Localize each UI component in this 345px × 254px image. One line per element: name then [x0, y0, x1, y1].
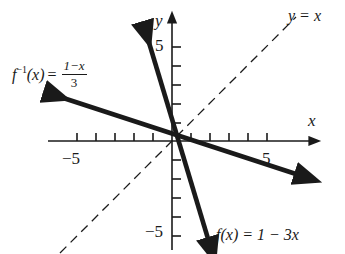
function-equation-label: f(x) = 1 − 3x: [216, 227, 299, 243]
identity-line-label: y = x: [288, 8, 321, 24]
inverse-function-equation-label: f−1(x) = 1−x 3: [12, 60, 87, 90]
fraction-numerator: 1−x: [62, 59, 87, 74]
x-tick-label-positive-5: 5: [262, 150, 271, 167]
inverse-function-exponent: −1: [16, 65, 26, 75]
inverse-function-argument: (x): [27, 67, 45, 83]
y-tick-label-negative-5: −5: [145, 223, 163, 240]
x-tick-label-negative-5: −5: [62, 150, 80, 167]
y-axis-label: y: [155, 12, 163, 29]
coordinate-plane: [0, 0, 345, 254]
y-tick-label-positive-5: 5: [155, 37, 164, 54]
fraction-denominator: 3: [69, 75, 80, 90]
graph-figure: x y −5 5 5 −5 f−1(x) = 1−x 3 f(x) = 1 − …: [0, 0, 345, 254]
inverse-function-equals-sign: =: [47, 67, 56, 83]
x-axis-label: x: [308, 112, 316, 129]
inverse-function-fraction: 1−x 3: [62, 59, 87, 89]
